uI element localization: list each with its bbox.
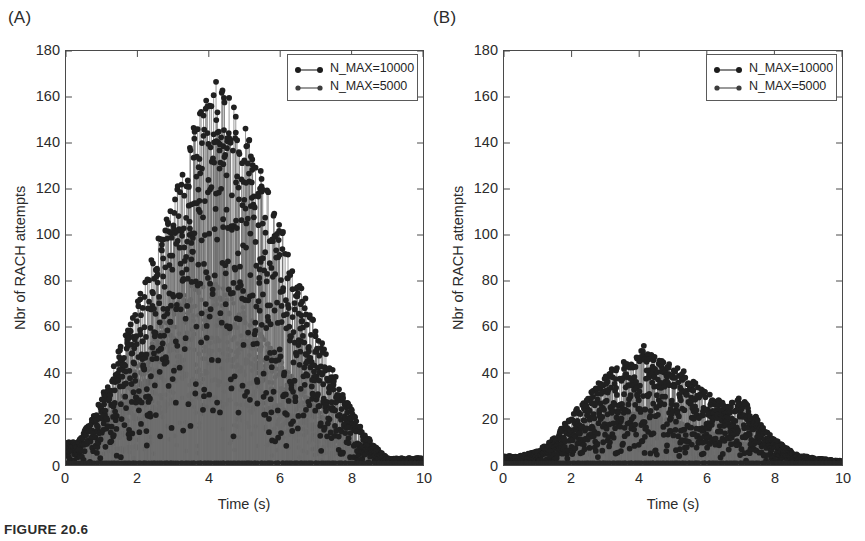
panel-a-xtick-0: 0 [50,471,80,486]
legend-marker-line-icon [713,80,743,92]
legend-row-nmax-5000: N_MAX=5000 [713,77,829,95]
panel-b-xtick-2: 2 [556,471,586,486]
panel-b-xtick-10: 10 [828,471,858,486]
panel-a: (A) 180 160 140 120 100 80 60 40 20 0 0 … [0,0,432,520]
panel-b-xtick-4: 4 [624,471,654,486]
panel-a-ytick-140: 140 [14,135,60,150]
legend-label-nmax-10000: N_MAX=10000 [749,61,833,75]
figure-root: (A) 180 160 140 120 100 80 60 40 20 0 0 … [0,0,865,541]
legend-marker-line-icon [713,62,743,74]
panel-a-xtick-2: 2 [122,471,152,486]
panel-b-xtick-6: 6 [692,471,722,486]
panel-a-xtick-8: 8 [337,471,367,486]
panel-b-xtick-8: 8 [760,471,790,486]
legend-label-nmax-5000: N_MAX=5000 [749,79,826,93]
panel-a-xtick-4: 4 [194,471,224,486]
panel-b-ytick-40: 40 [452,366,498,381]
panel-b: (B) 180 160 140 120 100 80 60 40 20 0 0 … [432,0,865,520]
panel-a-ytick-180: 180 [14,43,60,58]
panel-b-axes [503,50,843,466]
panel-b-plot-area [504,51,842,465]
panel-b-xtick-0: 0 [488,471,518,486]
panel-b-label: (B) [433,8,456,28]
legend-row-nmax-10000: N_MAX=10000 [294,59,410,77]
legend-marker-line-icon [294,62,324,74]
panel-b-ytick-180: 180 [452,43,498,58]
panel-b-ylabel: Nbr of RACH attempts [450,186,466,330]
panel-a-plot-area [66,51,423,465]
panel-a-xtick-6: 6 [265,471,295,486]
figure-caption: FIGURE 20.6 [4,522,88,537]
legend-marker-line-icon [294,80,324,92]
panel-a-ytick-40: 40 [14,366,60,381]
panel-a-axes [65,50,424,466]
panel-b-xlabel: Time (s) [573,497,773,512]
panel-a-ytick-160: 160 [14,89,60,104]
panel-b-legend: N_MAX=10000 N_MAX=5000 [706,54,837,101]
panel-a-ytick-20: 20 [14,412,60,427]
legend-row-nmax-5000: N_MAX=5000 [294,77,410,95]
panel-b-ytick-140: 140 [452,135,498,150]
legend-row-nmax-10000: N_MAX=10000 [713,59,829,77]
panel-a-legend: N_MAX=10000 N_MAX=5000 [287,54,418,101]
panel-b-ytick-160: 160 [452,89,498,104]
panel-a-label: (A) [8,8,31,28]
panel-b-ytick-20: 20 [452,412,498,427]
legend-label-nmax-10000: N_MAX=10000 [330,61,414,75]
legend-label-nmax-5000: N_MAX=5000 [330,79,407,93]
panel-a-ylabel: Nbr of RACH attempts [12,186,28,330]
panel-a-xlabel: Time (s) [144,497,344,512]
